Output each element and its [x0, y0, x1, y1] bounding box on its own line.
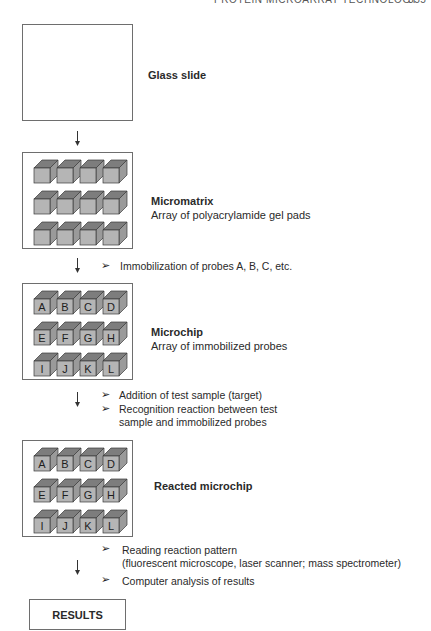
probe-array: ABCDEFGHIJKL	[23, 284, 132, 379]
microchip-description: Array of immobilized probes	[151, 339, 287, 353]
transition-text: Recognition reaction between test	[119, 403, 277, 416]
reacted-microchip-box: ABCDEFGHIJKL	[22, 440, 133, 537]
probe-label: K	[84, 520, 92, 532]
micromatrix-title: Micromatrix	[151, 194, 213, 208]
pad-cube	[103, 191, 127, 214]
probe-label: C	[84, 301, 92, 313]
probe-label: L	[108, 520, 114, 532]
reacted-probe-array: ABCDEFGHIJKL	[23, 441, 132, 536]
pad-cube: I	[34, 353, 58, 376]
transition-text: Computer analysis of results	[122, 575, 254, 588]
pad-cube: I	[34, 510, 58, 533]
results-box: RESULTS	[29, 599, 126, 630]
arrowhead-bullet-icon: ➢	[101, 259, 110, 272]
probe-label: K	[84, 363, 92, 375]
transition-text: Addition of test sample (target)	[119, 389, 262, 402]
pad-cube: A	[34, 291, 58, 314]
pad-cube: C	[80, 291, 104, 314]
microchip-box: ABCDEFGHIJKL	[22, 283, 133, 380]
pad-cube	[80, 222, 104, 245]
gel-pad-array	[23, 153, 132, 248]
pad-cube: D	[103, 291, 127, 314]
probe-label: E	[38, 489, 45, 501]
pad-cube	[80, 160, 104, 183]
pad-cube	[80, 191, 104, 214]
probe-label: E	[38, 332, 45, 344]
pad-cube	[103, 160, 127, 183]
pad-cube	[34, 191, 58, 214]
pad-cube: J	[57, 353, 81, 376]
pad-cube: D	[103, 448, 127, 471]
probe-label: G	[84, 332, 93, 344]
probe-label: D	[107, 301, 115, 313]
down-arrow-icon	[73, 560, 82, 576]
down-arrow-icon	[73, 392, 82, 408]
results-label: RESULTS	[52, 609, 103, 621]
pad-cube	[34, 160, 58, 183]
microchip-title: Microchip	[151, 325, 203, 339]
pad-cube	[57, 191, 81, 214]
probe-label: B	[61, 301, 68, 313]
down-arrow-icon	[73, 258, 82, 274]
probe-label: A	[38, 458, 46, 470]
probe-label: A	[38, 301, 46, 313]
probe-label: F	[62, 489, 69, 501]
pad-cube: A	[34, 448, 58, 471]
reacted-microchip-title: Reacted microchip	[154, 479, 252, 493]
probe-label: J	[62, 520, 68, 532]
pad-cube: G	[80, 322, 104, 345]
micromatrix-description: Array of polyacrylamide gel pads	[151, 208, 311, 222]
pad-cube: E	[34, 322, 58, 345]
pad-cube: B	[57, 448, 81, 471]
pad-cube: L	[103, 510, 127, 533]
page-number: 355	[408, 0, 427, 5]
glass-slide-box	[22, 24, 133, 121]
probe-label: J	[62, 363, 68, 375]
pad-cube: L	[103, 353, 127, 376]
glass-slide-title: Glass slide	[148, 68, 206, 82]
pad-cube	[34, 222, 58, 245]
transition-text: sample and immobilized probes	[119, 416, 267, 429]
probe-label: F	[62, 332, 69, 344]
arrowhead-bullet-icon: ➢	[101, 402, 110, 415]
pad-cube: K	[80, 353, 104, 376]
transition-text: Immobilization of probes A, B, C, etc.	[120, 260, 292, 273]
pad-cube: H	[103, 479, 127, 502]
micromatrix-box	[22, 152, 133, 249]
transition-text: (fluorescent microscope, laser scanner; …	[122, 557, 401, 570]
arrowhead-bullet-icon: ➢	[101, 573, 110, 586]
pad-cube: B	[57, 291, 81, 314]
probe-label: H	[107, 332, 115, 344]
arrowhead-bullet-icon: ➢	[101, 542, 110, 555]
probe-label: G	[84, 489, 93, 501]
probe-label: H	[107, 489, 115, 501]
probe-label: B	[61, 458, 68, 470]
probe-label: I	[40, 363, 43, 375]
running-title: PROTEIN MICROARRAY TECHNOLOGY	[214, 0, 418, 5]
pad-cube: H	[103, 322, 127, 345]
pad-cube	[57, 222, 81, 245]
pad-cube: K	[80, 510, 104, 533]
transition-text: Reading reaction pattern	[122, 544, 237, 557]
pad-cube: C	[80, 448, 104, 471]
pad-cube: F	[57, 322, 81, 345]
arrowhead-bullet-icon: ➢	[101, 388, 110, 401]
pad-cube	[57, 160, 81, 183]
down-arrow-icon	[73, 131, 82, 147]
probe-label: C	[84, 458, 92, 470]
running-header: PROTEIN MICROARRAY TECHNOLOGY 355	[214, 0, 431, 6]
probe-label: I	[40, 520, 43, 532]
pad-cube: F	[57, 479, 81, 502]
pad-cube: J	[57, 510, 81, 533]
pad-cube: E	[34, 479, 58, 502]
probe-label: L	[108, 363, 114, 375]
pad-cube	[103, 222, 127, 245]
probe-label: D	[107, 458, 115, 470]
pad-cube: G	[80, 479, 104, 502]
